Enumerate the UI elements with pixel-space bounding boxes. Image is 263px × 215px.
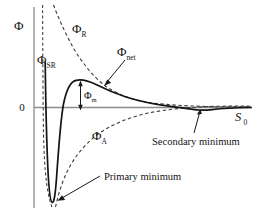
phi-net-leader-arrow — [104, 60, 125, 86]
phi-a-label: Φ A — [92, 128, 108, 146]
zero-tick-label: 0 — [19, 101, 25, 113]
secondary-minimum-leader-arrow — [194, 109, 202, 133]
secondary-minimum-arrow-shaft — [194, 113, 200, 133]
phi-m-label: Φ m — [84, 90, 97, 103]
phi-r-label: Φ R — [72, 21, 87, 39]
phi-m-label-sub: m — [92, 96, 97, 103]
dlvo-plot-svg: Φ S 0 0 Φ SR Φ R Φ net Φ A Φ — [0, 0, 263, 215]
phi-net-arrow-head — [104, 80, 111, 86]
y-axis-label: Φ — [14, 18, 24, 33]
phi-sr-curve — [43, 5, 52, 207]
phi-r-label-sub: R — [82, 30, 87, 39]
phi-r-label-base: Φ — [72, 21, 82, 36]
phi-sr-label-sub: SR — [47, 61, 56, 70]
primary-minimum-arrow-shaft — [62, 176, 100, 198]
x-axis-label-sub: 0 — [244, 118, 248, 127]
secondary-minimum-label: Secondary minimum — [152, 136, 240, 147]
phi-m-arrow-head-up — [78, 81, 83, 87]
dlvo-figure: Φ S 0 0 Φ SR Φ R Φ net Φ A Φ — [0, 0, 263, 215]
phi-sr-label: Φ SR — [37, 52, 56, 70]
phi-net-label-base: Φ — [117, 44, 127, 59]
phi-net-arrow-shaft — [107, 60, 125, 82]
phi-a-label-sub: A — [102, 137, 108, 146]
phi-net-label: Φ net — [117, 44, 137, 62]
x-axis-label-base: S — [235, 110, 242, 124]
primary-minimum-leader-arrow — [58, 176, 101, 201]
primary-minimum-arrow-head — [58, 195, 66, 201]
phi-m-measure-arrow — [78, 81, 83, 111]
primary-minimum-label: Primary minimum — [104, 171, 181, 182]
x-axis-label: S 0 — [235, 110, 248, 127]
phi-a-label-base: Φ — [92, 128, 102, 143]
phi-net-label-sub: net — [127, 53, 137, 62]
phi-a-curve — [56, 106, 252, 207]
phi-sr-label-base: Φ — [37, 52, 47, 67]
